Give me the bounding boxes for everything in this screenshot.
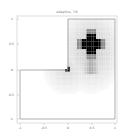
heatmap-cell [98, 24, 100, 27]
heatmap-cell [70, 52, 72, 55]
heatmap-cell [60, 82, 62, 85]
heatmap-cell [84, 49, 86, 52]
heatmap-cell [101, 44, 103, 47]
heatmap-cell [94, 57, 96, 60]
heatmap-cell [89, 84, 91, 87]
heatmap-cell [77, 72, 79, 75]
heatmap-cell [110, 67, 112, 70]
heatmap-cell [103, 82, 105, 85]
heatmap-cell [77, 67, 79, 70]
heatmap-cell [79, 79, 81, 82]
heatmap-cell [72, 74, 74, 77]
heatmap-cell [70, 39, 72, 42]
heatmap-cell [84, 27, 86, 30]
heatmap-cell [49, 82, 51, 85]
heatmap-cell [98, 27, 100, 30]
heatmap-cell [77, 52, 79, 55]
heatmap-cell [108, 77, 110, 80]
heatmap-cell [77, 49, 79, 52]
heatmap-cell [63, 82, 65, 85]
heatmap-cell [108, 57, 110, 60]
heatmap-cell [70, 67, 72, 70]
heatmap-cell [94, 49, 96, 52]
heatmap-cell [87, 49, 89, 52]
heatmap-cell [82, 77, 84, 80]
heatmap-cell [103, 34, 105, 37]
heatmap-cell [98, 77, 100, 80]
heatmap-cell [91, 84, 93, 87]
heatmap-cell [46, 77, 48, 80]
heatmap-cell [70, 79, 72, 82]
heatmap-cell [91, 39, 93, 42]
heatmap-cell [82, 39, 84, 42]
heatmap-cell [79, 72, 81, 75]
heatmap-cell [87, 27, 89, 30]
heatmap-cell [94, 69, 96, 72]
heatmap-cell [89, 22, 91, 25]
heatmap-cell [72, 42, 74, 45]
heatmap-cell [58, 74, 60, 77]
x-tick-label: -1 [19, 126, 22, 130]
heatmap-cell [70, 69, 72, 72]
heatmap-cell [72, 34, 74, 37]
heatmap-cell [87, 32, 89, 35]
heatmap-cell [49, 77, 51, 80]
heatmap-cell [84, 74, 86, 77]
heatmap-cell [110, 39, 112, 42]
heatmap-cell [94, 89, 96, 92]
heatmap-cell [75, 37, 77, 40]
heatmap-cell [94, 37, 96, 40]
heatmap-cell [108, 29, 110, 32]
heatmap-cell [51, 74, 53, 77]
heatmap-cell [89, 82, 91, 85]
heatmap-cell [96, 77, 98, 80]
heatmap-cell [91, 37, 93, 40]
heatmap-cell [110, 69, 112, 72]
heatmap-cell [106, 47, 108, 50]
heatmap-cell [101, 89, 103, 92]
heatmap-cell [87, 29, 89, 32]
heatmap-cell [79, 44, 81, 47]
heatmap-cell [77, 34, 79, 37]
heatmap-cell [87, 47, 89, 50]
heatmap-cell [56, 87, 58, 90]
heatmap-cell [77, 89, 79, 92]
heatmap-cell [79, 84, 81, 87]
heatmap-cell [75, 59, 77, 62]
heatmap-cell [101, 79, 103, 82]
heatmap-cell [79, 49, 81, 52]
heatmap-cell [98, 79, 100, 82]
heatmap-cell [110, 47, 112, 50]
heatmap-cell [79, 89, 81, 92]
heatmap-cell [79, 67, 81, 70]
heatmap-cell [87, 52, 89, 55]
heatmap-cell [106, 74, 108, 77]
heatmap-cell [103, 42, 105, 45]
heatmap-cell [101, 22, 103, 25]
heatmap-cell [75, 69, 77, 72]
heatmap-cell [68, 89, 70, 92]
heatmap-cell [89, 29, 91, 32]
heatmap-cell [98, 29, 100, 32]
heatmap-cell [53, 87, 55, 90]
heatmap-cell [101, 69, 103, 72]
heatmap-cell [77, 37, 79, 40]
heatmap-cell [101, 84, 103, 87]
heatmap-cell [82, 62, 84, 65]
heatmap-cell [108, 62, 110, 65]
heatmap-cell [108, 47, 110, 50]
heatmap-cell [44, 77, 46, 80]
heatmap-cell [87, 59, 89, 62]
heatmap-cell [106, 62, 108, 65]
heatmap-cell [106, 49, 108, 52]
heatmap-cell [56, 77, 58, 80]
heatmap-cell [101, 34, 103, 37]
heatmap-cell [70, 59, 72, 62]
heatmap-cell [98, 54, 100, 57]
heatmap-cell [72, 44, 74, 47]
heatmap-cell [91, 74, 93, 77]
heatmap-cell [94, 54, 96, 57]
heatmap-cell [70, 24, 72, 27]
heatmap-cell [108, 72, 110, 75]
heatmap-cell [82, 69, 84, 72]
